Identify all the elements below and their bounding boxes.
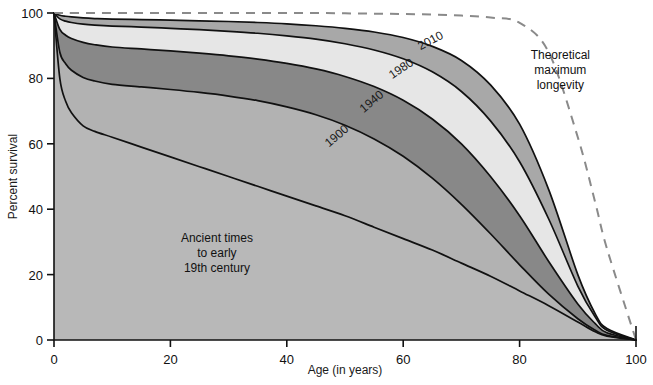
y-tick-label-60: 60	[29, 137, 43, 152]
x-tick-label-40: 40	[280, 352, 294, 367]
x-tick-label-80: 80	[512, 352, 526, 367]
y-tick-label-80: 80	[29, 71, 43, 86]
x-tick-label-20: 20	[163, 352, 177, 367]
y-tick-label-40: 40	[29, 202, 43, 217]
y-tick-label-100: 100	[21, 6, 43, 21]
theoretical-annotation-line-1: Theoretical	[531, 48, 590, 62]
y-axis-title: Percent survival	[6, 134, 20, 219]
x-tick-label-100: 100	[625, 352, 647, 367]
chart-canvas: 020406080100020406080100Age (in years)Pe…	[0, 0, 653, 385]
x-tick-label-0: 0	[50, 352, 57, 367]
x-tick-label-60: 60	[396, 352, 410, 367]
survival-curve-chart: 020406080100020406080100Age (in years)Pe…	[0, 0, 653, 385]
y-tick-label-20: 20	[29, 268, 43, 283]
theoretical-annotation: Theoreticalmaximumlongevity	[531, 48, 590, 92]
ancient-times-annotation-line-1: Ancient times	[181, 231, 253, 245]
theoretical-annotation-line-2: maximum	[534, 63, 586, 77]
y-tick-label-0: 0	[36, 333, 43, 348]
ancient-times-annotation-line-3: 19th century	[184, 261, 250, 275]
theoretical-annotation-line-3: longevity	[537, 78, 584, 92]
ancient-times-annotation-line-2: to early	[197, 246, 236, 260]
x-axis-title: Age (in years)	[308, 363, 383, 377]
